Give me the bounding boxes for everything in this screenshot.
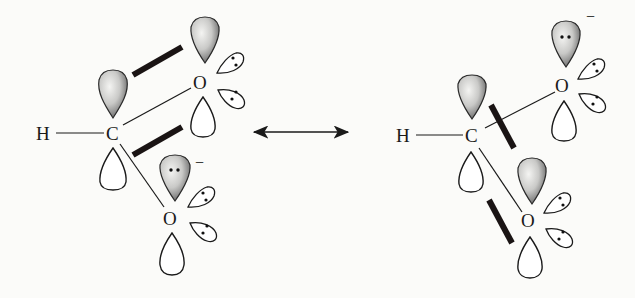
oxygen-bottom-lone-pair-upper bbox=[544, 193, 571, 213]
left-resonance-structure: H C O O − bbox=[36, 17, 245, 275]
lone-pair-electron bbox=[176, 168, 179, 171]
oxygen-bottom-p-orbital-lower-lobe bbox=[518, 237, 542, 278]
oxygen-top-label: O bbox=[555, 75, 569, 96]
carbon-p-orbital-upper-lobe bbox=[458, 75, 486, 119]
oxygen-bottom-label: O bbox=[521, 210, 535, 231]
carbon-p-orbital-upper-lobe bbox=[99, 70, 128, 118]
lone-pair-electron bbox=[560, 35, 563, 38]
oxygen-bottom-p-orbital-lower-lobe bbox=[160, 233, 184, 275]
c-o-top-bond bbox=[123, 88, 191, 125]
oxygen-top-label: O bbox=[193, 72, 207, 93]
hydrogen-label: H bbox=[396, 125, 410, 146]
lone-pair-electron bbox=[169, 168, 172, 171]
oxygen-top-lone-pair-upper bbox=[217, 53, 244, 73]
lone-pair-electron bbox=[567, 35, 570, 38]
negative-charge: − bbox=[195, 154, 204, 171]
oxygen-bottom-label: O bbox=[163, 208, 177, 229]
c-o-bottom-bond bbox=[120, 144, 164, 207]
oxygen-top-p-orbital-lower-lobe bbox=[552, 101, 576, 141]
oxygen-bottom-lone-pair-lower bbox=[190, 223, 217, 242]
right-resonance-structure: H C O O − bbox=[396, 8, 606, 278]
oxygen-bottom-lone-pair-upper bbox=[188, 187, 215, 207]
pi-overlap-bar bbox=[133, 47, 182, 75]
oxygen-bottom-lone-pair-lower bbox=[546, 229, 573, 248]
oxygen-top-lone-pair-lower bbox=[218, 90, 245, 109]
pi-overlap-bar bbox=[133, 127, 182, 155]
oxygen-top-lone-pair-upper bbox=[578, 59, 605, 79]
oxygen-bottom-p-orbital-upper-lobe bbox=[518, 158, 546, 204]
c-o-bottom-bond bbox=[479, 148, 522, 212]
oxygen-top-p-orbital-lower-lobe bbox=[191, 97, 215, 137]
carbon-p-orbital-lower-lobe bbox=[459, 152, 483, 192]
pi-overlap-bar bbox=[491, 105, 514, 148]
carbon-p-orbital-lower-lobe bbox=[100, 148, 126, 190]
hydrogen-label: H bbox=[36, 123, 50, 144]
carbon-label: C bbox=[106, 123, 119, 144]
oxygen-bottom-p-orbital-upper-lobe bbox=[160, 155, 190, 201]
pi-overlap-bar bbox=[489, 200, 512, 243]
resonance-diagram: H C O O − bbox=[0, 0, 635, 298]
oxygen-top-p-orbital-upper-lobe bbox=[552, 21, 580, 67]
oxygen-top-p-orbital-upper-lobe bbox=[191, 17, 219, 63]
carbon-label: C bbox=[465, 125, 478, 146]
oxygen-top-lone-pair-lower bbox=[579, 94, 606, 113]
negative-charge: − bbox=[586, 8, 595, 25]
